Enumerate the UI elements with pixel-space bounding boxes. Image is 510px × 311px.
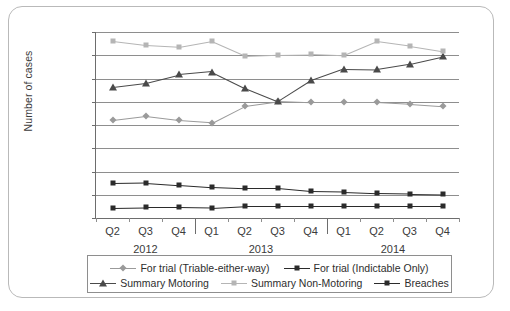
x-tick-mark <box>96 218 97 222</box>
legend-marker-shape <box>231 280 236 285</box>
series-segment <box>113 183 146 185</box>
legend-marker-icon <box>90 278 116 288</box>
legend-item-summary-motoring[interactable]: Summary Motoring <box>90 277 209 289</box>
year-separator <box>195 218 196 234</box>
legend-marker-shape <box>385 280 390 285</box>
legend-item-breaches[interactable]: Breaches <box>374 277 448 289</box>
data-point <box>341 189 346 194</box>
y-axis-title: Number of cases <box>22 26 34 156</box>
data-point <box>143 180 148 185</box>
x-tick-mark <box>261 218 262 222</box>
data-point <box>407 191 412 196</box>
legend-marker-shape <box>120 264 127 271</box>
x-tick-mark <box>228 218 229 222</box>
data-point <box>275 186 280 191</box>
plot-area: 160,000140,000120,000100,00080,00060,000… <box>95 32 459 219</box>
series-segment <box>376 193 409 195</box>
x-tick-mark <box>162 218 163 222</box>
legend-label: Summary Non-Motoring <box>251 277 362 289</box>
legend-marker-shape <box>99 279 107 286</box>
series-segment <box>277 188 310 192</box>
year-label-2013: 2013 <box>226 243 296 255</box>
x-tick-label-10: Q4 <box>426 225 460 237</box>
series-segment <box>310 191 343 193</box>
legend-item-summary-non-motoring[interactable]: Summary Non-Motoring <box>221 277 362 289</box>
series-4 <box>96 32 459 218</box>
x-tick-label-8: Q2 <box>360 225 394 237</box>
legend-item-for-trial-triable-either-way[interactable]: For trial (Triable-either-way) <box>110 262 269 274</box>
legend-item-for-trial-indictable-only[interactable]: For trial (Indictable Only) <box>284 262 429 274</box>
data-point <box>209 185 214 190</box>
series-segment <box>409 194 442 196</box>
x-tick-label-6: Q4 <box>294 225 328 237</box>
data-point <box>374 191 379 196</box>
series-segment <box>178 185 211 188</box>
x-tick-mark <box>459 218 460 222</box>
data-point <box>176 182 181 187</box>
legend-row-0: For trial (Triable-either-way)For trial … <box>94 260 445 275</box>
data-point <box>308 189 313 194</box>
chart-frame: Number of cases 160,000140,000120,000100… <box>8 6 494 298</box>
year-label-2014: 2014 <box>358 243 428 255</box>
legend-label: Breaches <box>404 277 448 289</box>
year-label-2012: 2012 <box>111 243 181 255</box>
legend-label: For trial (Indictable Only) <box>314 262 429 274</box>
chart-legend: For trial (Triable-either-way)For trial … <box>87 255 452 293</box>
data-point <box>440 192 445 197</box>
x-tick-mark <box>393 218 394 222</box>
x-tick-label-9: Q3 <box>393 225 427 237</box>
legend-marker-icon <box>284 263 310 273</box>
x-tick-mark <box>426 218 427 222</box>
data-point <box>110 181 115 186</box>
data-point <box>242 186 247 191</box>
x-tick-label-2: Q4 <box>162 225 196 237</box>
series-segment <box>245 188 278 189</box>
x-tick-label-4: Q2 <box>228 225 262 237</box>
x-tick-label-3: Q1 <box>195 225 229 237</box>
series-segment <box>145 183 178 186</box>
legend-marker-icon <box>221 278 247 288</box>
x-tick-mark <box>129 218 130 222</box>
legend-marker-icon <box>110 263 136 273</box>
x-tick-label-5: Q3 <box>261 225 295 237</box>
legend-label: Summary Motoring <box>120 277 209 289</box>
legend-row-1: Summary MotoringSummary Non-MotoringBrea… <box>94 275 445 290</box>
x-tick-label-7: Q1 <box>327 225 361 237</box>
legend-marker-icon <box>374 278 400 288</box>
x-tick-mark <box>294 218 295 222</box>
series-segment <box>211 187 244 189</box>
x-tick-mark <box>360 218 361 222</box>
x-tick-label-1: Q3 <box>129 225 163 237</box>
year-separator <box>327 218 328 234</box>
legend-marker-shape <box>294 265 299 270</box>
x-tick-label-0: Q2 <box>96 225 130 237</box>
legend-label: For trial (Triable-either-way) <box>140 262 269 274</box>
series-segment <box>343 192 376 194</box>
